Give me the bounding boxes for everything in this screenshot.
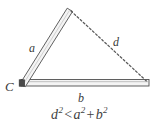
- label-side-a: a: [29, 42, 35, 54]
- formula-caption: d2<a2+b2: [0, 107, 159, 123]
- formula-plus: +: [86, 107, 96, 122]
- bar-b: [21, 80, 149, 87]
- hinge-pivot-icon: [19, 80, 24, 86]
- formula-relation: <: [63, 107, 73, 122]
- dashed-diagonal-d: [71, 11, 148, 82]
- bar-b-body: [21, 80, 149, 87]
- label-side-b: b: [78, 92, 84, 104]
- formula-a-exp: 2: [81, 105, 86, 115]
- hinge-block: [19, 80, 24, 86]
- geometry-figure: a b d C d2<a2+b2: [0, 0, 159, 130]
- formula-b-base: b: [96, 107, 103, 122]
- label-vertex-c: C: [5, 80, 14, 93]
- formula-b-exp: 2: [103, 105, 108, 115]
- label-diagonal-d: d: [113, 36, 119, 48]
- bar-a: [20, 8, 73, 86]
- formula-a-base: a: [73, 107, 80, 122]
